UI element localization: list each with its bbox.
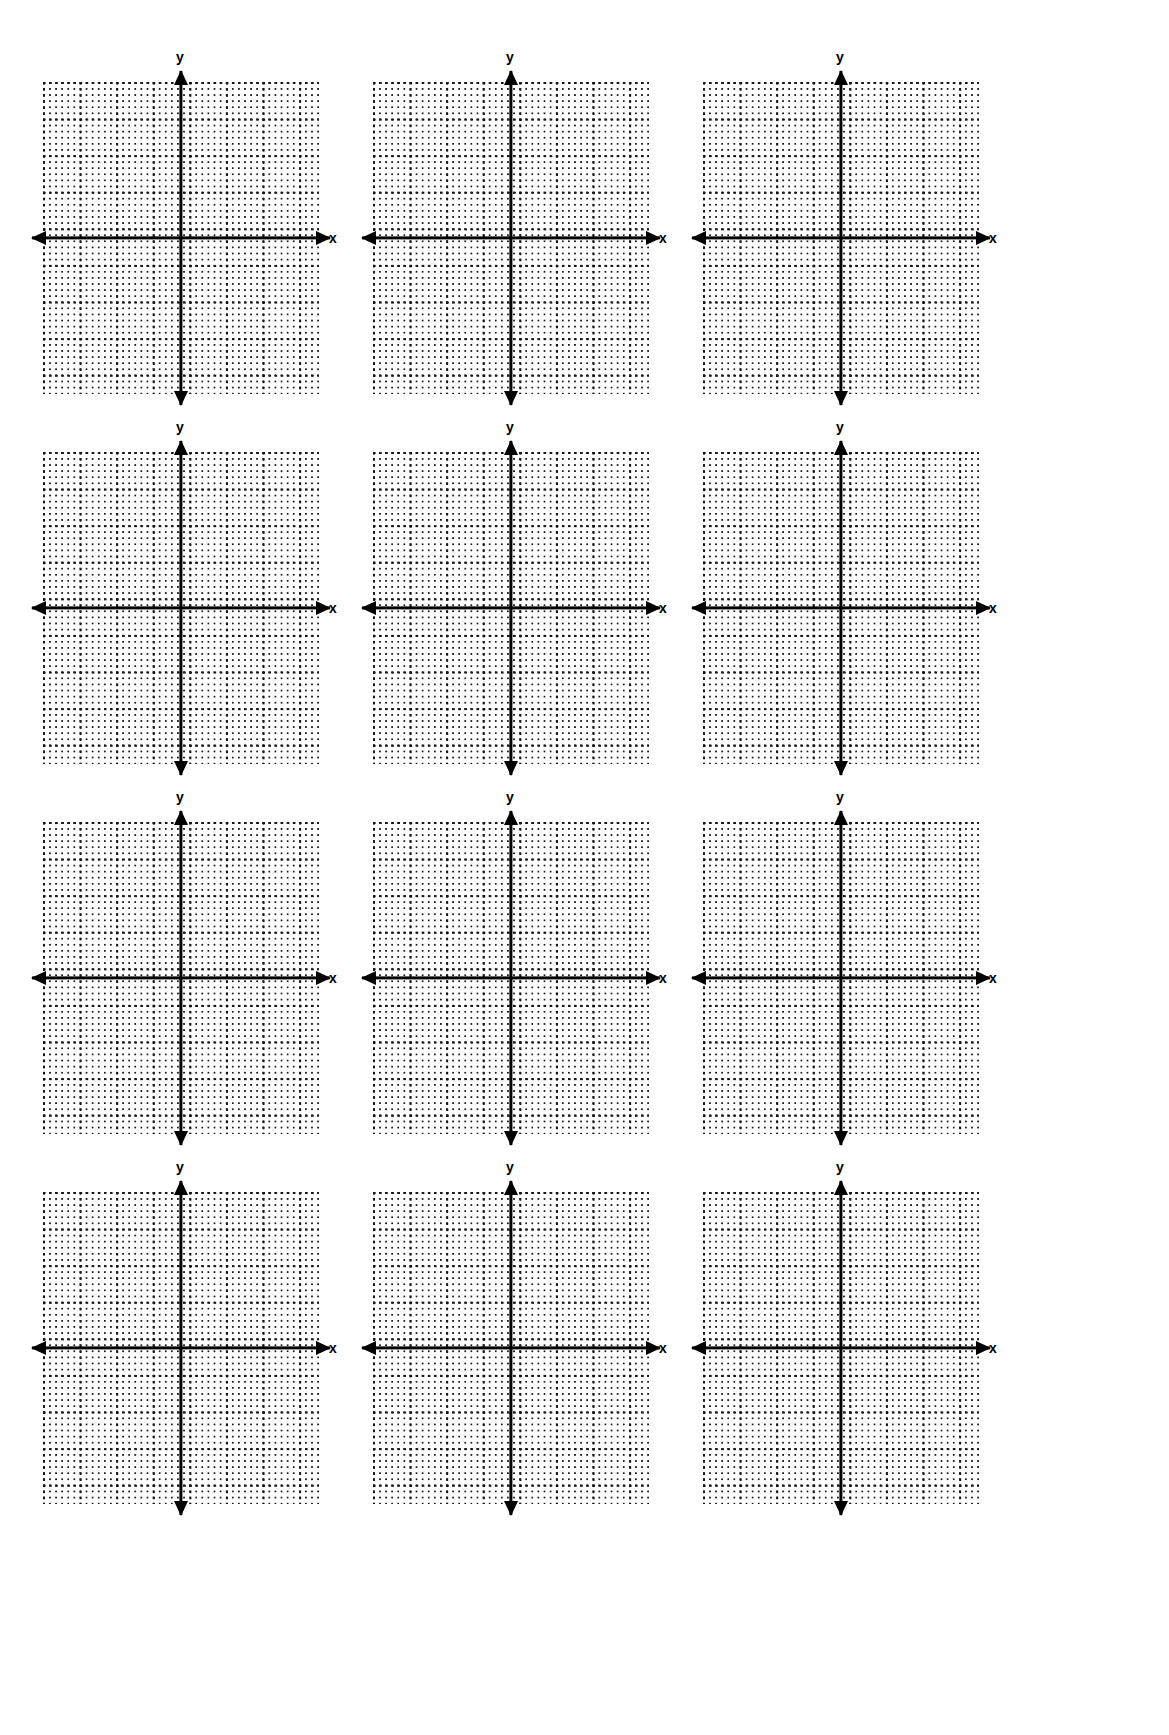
graph-row-1: xyxyxy <box>0 60 1169 440</box>
arrow-down-icon <box>504 1131 518 1146</box>
arrow-up-icon <box>834 1180 848 1195</box>
graph-row-2: xyxyxy <box>0 430 1169 810</box>
coordinate-plane-9[interactable]: xy <box>703 822 979 1134</box>
y-axis-line <box>839 1181 842 1515</box>
arrow-left-icon <box>361 231 376 245</box>
arrow-up-icon <box>834 440 848 455</box>
arrow-left-icon <box>31 971 46 985</box>
x-axis-label: x <box>659 231 667 245</box>
graph-cell-9[interactable]: xy <box>688 800 1028 1180</box>
arrow-down-icon <box>834 1501 848 1516</box>
graph-cell-4[interactable]: xy <box>28 430 368 810</box>
graph-row-4: xyxyxy <box>0 1170 1169 1550</box>
coordinate-plane-8[interactable]: xy <box>373 822 649 1134</box>
coordinate-plane-7[interactable]: xy <box>43 822 319 1134</box>
x-axis-label: x <box>659 971 667 985</box>
coordinate-plane-12[interactable]: xy <box>703 1192 979 1504</box>
arrow-up-icon <box>834 810 848 825</box>
graph-cell-10[interactable]: xy <box>28 1170 368 1550</box>
graph-cell-8[interactable]: xy <box>358 800 698 1180</box>
y-axis-line <box>509 811 512 1145</box>
arrow-up-icon <box>174 1180 188 1195</box>
graph-cell-6[interactable]: xy <box>688 430 1028 810</box>
arrow-left-icon <box>361 1341 376 1355</box>
graph-cell-12[interactable]: xy <box>688 1170 1028 1550</box>
arrow-left-icon <box>361 971 376 985</box>
arrow-up-icon <box>174 70 188 85</box>
arrow-down-icon <box>504 391 518 406</box>
arrow-up-icon <box>504 70 518 85</box>
arrow-up-icon <box>174 440 188 455</box>
arrow-down-icon <box>834 1131 848 1146</box>
graph-cell-2[interactable]: xy <box>358 60 698 440</box>
arrow-up-icon <box>504 810 518 825</box>
arrow-down-icon <box>174 1501 188 1516</box>
y-axis-line <box>509 1181 512 1515</box>
arrow-up-icon <box>504 1180 518 1195</box>
x-axis-label: x <box>329 971 337 985</box>
graph-row-3: xyxyxy <box>0 800 1169 1180</box>
y-axis-label: y <box>836 790 844 804</box>
y-axis-label: y <box>506 50 514 64</box>
arrow-left-icon <box>31 1341 46 1355</box>
arrow-down-icon <box>174 761 188 776</box>
coordinate-plane-worksheet: xyxyxyxyxyxyxyxyxyxyxyxy <box>0 0 1169 1735</box>
x-axis-label: x <box>989 601 997 615</box>
graph-cell-7[interactable]: xy <box>28 800 368 1180</box>
coordinate-plane-4[interactable]: xy <box>43 452 319 764</box>
y-axis-label: y <box>506 1160 514 1174</box>
x-axis-label: x <box>329 1341 337 1355</box>
arrow-up-icon <box>504 440 518 455</box>
y-axis-label: y <box>836 50 844 64</box>
y-axis-line <box>179 1181 182 1515</box>
y-axis-line <box>509 441 512 775</box>
y-axis-line <box>179 71 182 405</box>
arrow-down-icon <box>174 391 188 406</box>
y-axis-line <box>179 441 182 775</box>
coordinate-plane-3[interactable]: xy <box>703 82 979 394</box>
x-axis-label: x <box>329 231 337 245</box>
x-axis-label: x <box>659 601 667 615</box>
arrow-up-icon <box>834 70 848 85</box>
arrow-left-icon <box>31 601 46 615</box>
coordinate-plane-5[interactable]: xy <box>373 452 649 764</box>
coordinate-plane-2[interactable]: xy <box>373 82 649 394</box>
x-axis-label: x <box>329 601 337 615</box>
arrow-left-icon <box>691 601 706 615</box>
y-axis-line <box>839 441 842 775</box>
y-axis-label: y <box>176 50 184 64</box>
graph-cell-5[interactable]: xy <box>358 430 698 810</box>
graph-cell-11[interactable]: xy <box>358 1170 698 1550</box>
arrow-down-icon <box>504 761 518 776</box>
y-axis-line <box>839 71 842 405</box>
arrow-down-icon <box>174 1131 188 1146</box>
coordinate-plane-11[interactable]: xy <box>373 1192 649 1504</box>
arrow-left-icon <box>31 231 46 245</box>
x-axis-label: x <box>989 1341 997 1355</box>
y-axis-label: y <box>506 790 514 804</box>
arrow-left-icon <box>361 601 376 615</box>
y-axis-label: y <box>176 790 184 804</box>
x-axis-label: x <box>989 231 997 245</box>
y-axis-label: y <box>176 1160 184 1174</box>
graph-cell-3[interactable]: xy <box>688 60 1028 440</box>
arrow-down-icon <box>834 391 848 406</box>
y-axis-line <box>509 71 512 405</box>
y-axis-label: y <box>176 420 184 434</box>
y-axis-label: y <box>836 1160 844 1174</box>
arrow-down-icon <box>834 761 848 776</box>
arrow-left-icon <box>691 231 706 245</box>
y-axis-line <box>179 811 182 1145</box>
coordinate-plane-6[interactable]: xy <box>703 452 979 764</box>
x-axis-label: x <box>989 971 997 985</box>
y-axis-label: y <box>506 420 514 434</box>
arrow-down-icon <box>504 1501 518 1516</box>
graph-cell-1[interactable]: xy <box>28 60 368 440</box>
coordinate-plane-10[interactable]: xy <box>43 1192 319 1504</box>
coordinate-plane-1[interactable]: xy <box>43 82 319 394</box>
y-axis-line <box>839 811 842 1145</box>
x-axis-label: x <box>659 1341 667 1355</box>
y-axis-label: y <box>836 420 844 434</box>
arrow-up-icon <box>174 810 188 825</box>
arrow-left-icon <box>691 1341 706 1355</box>
